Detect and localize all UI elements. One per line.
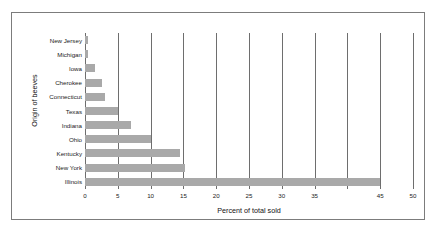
bar-row — [85, 161, 413, 175]
bar-chart-figure: New JerseyMichiganIowaCherokeeConnecticu… — [0, 0, 438, 248]
bar-row — [85, 132, 413, 146]
x-axis-tick-labels: 051015202530354550 — [85, 192, 413, 202]
bar — [85, 79, 102, 87]
y-tick-label: New Jersey — [20, 37, 82, 44]
bar — [85, 149, 180, 157]
bar — [85, 93, 105, 101]
bar-row — [85, 33, 413, 47]
bar — [85, 50, 88, 58]
x-tick-label: 15 — [180, 192, 187, 199]
x-tick-label: 0 — [83, 192, 86, 199]
x-tick-label: 30 — [278, 192, 285, 199]
bar-row — [85, 104, 413, 118]
y-tick-label: Illinois — [20, 178, 82, 185]
x-axis-title: Percent of total sold — [85, 206, 413, 215]
gridline-50 — [413, 33, 414, 189]
bars-layer — [85, 33, 413, 189]
bar-row — [85, 76, 413, 90]
bar — [85, 121, 131, 129]
x-tick-label: 20 — [213, 192, 220, 199]
x-tick-label: 10 — [147, 192, 154, 199]
y-axis-title: Origin of beeves — [30, 46, 39, 156]
bar — [85, 36, 88, 44]
y-tick-label: New York — [20, 164, 82, 171]
bar-row — [85, 90, 413, 104]
bar — [85, 107, 118, 115]
x-tick-label: 5 — [116, 192, 119, 199]
x-tick-label: 25 — [246, 192, 253, 199]
bar-row — [85, 118, 413, 132]
x-tick-label: 45 — [377, 192, 384, 199]
bar — [85, 64, 95, 72]
x-tick-label: 35 — [311, 192, 318, 199]
bar — [85, 164, 185, 172]
x-tick-label: 50 — [410, 192, 417, 199]
bar — [85, 135, 151, 143]
bar-row — [85, 146, 413, 160]
bar-row — [85, 175, 413, 189]
bar-row — [85, 61, 413, 75]
plot-area — [85, 33, 413, 189]
bar-row — [85, 47, 413, 61]
bar — [85, 178, 380, 186]
